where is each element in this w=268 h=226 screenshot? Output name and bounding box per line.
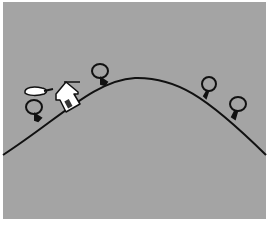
smoke-icon (25, 87, 53, 95)
tree-top-left-icon (92, 64, 108, 85)
tree-far-right-icon (230, 97, 246, 119)
house-icon (56, 82, 80, 112)
hill-illustration (0, 0, 268, 226)
tree-left-icon (26, 100, 42, 121)
tree-right-icon (202, 77, 216, 98)
